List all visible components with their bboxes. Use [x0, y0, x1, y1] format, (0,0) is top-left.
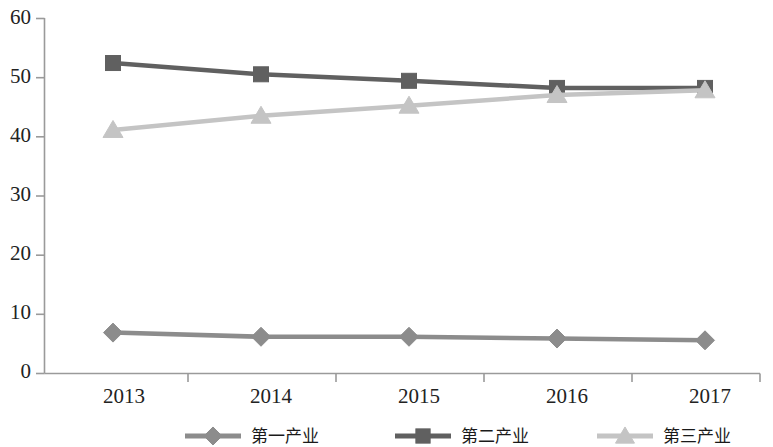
series-2	[106, 56, 713, 96]
legend-item-2[interactable]: 第二产业	[395, 426, 529, 446]
data-point-marker	[252, 327, 271, 346]
chart-legend: 第一产业第二产业第三产业	[185, 426, 731, 446]
data-point-marker	[204, 427, 222, 445]
legend-label: 第一产业	[251, 426, 319, 446]
data-point-marker	[106, 56, 121, 71]
data-point-marker	[254, 67, 269, 82]
data-point-marker	[416, 429, 430, 443]
legend-label: 第三产业	[663, 426, 731, 446]
x-tick-label: 2016	[546, 384, 588, 408]
x-tick-label: 2014	[250, 384, 293, 408]
legend-item-1[interactable]: 第一产业	[185, 426, 319, 446]
x-tick-label: 2013	[103, 384, 145, 408]
y-tick-label: 40	[10, 123, 31, 147]
y-tick-label: 50	[10, 64, 31, 88]
plot-series-layer	[103, 56, 715, 350]
y-tick-label: 10	[10, 300, 31, 324]
y-tick-label: 30	[10, 182, 31, 206]
line-chart: 60 50 40 30 20 10 0 2013 2014 2015 2016 …	[0, 0, 773, 447]
y-axis-ticks	[36, 19, 45, 374]
data-point-marker	[400, 327, 419, 346]
data-point-marker	[104, 323, 123, 342]
x-axis-ticks	[188, 374, 760, 383]
data-point-marker	[548, 329, 567, 348]
y-tick-label: 0	[21, 359, 32, 383]
legend-label: 第二产业	[461, 426, 529, 446]
data-point-marker	[402, 73, 417, 88]
chart-canvas: 60 50 40 30 20 10 0 2013 2014 2015 2016 …	[0, 0, 773, 447]
y-tick-label: 60	[10, 5, 31, 29]
x-tick-label: 2015	[398, 384, 440, 408]
y-axis-labels: 60 50 40 30 20 10 0	[10, 5, 31, 383]
y-tick-label: 20	[10, 241, 31, 265]
legend-item-3[interactable]: 第三产业	[597, 426, 731, 446]
x-tick-label: 2017	[689, 384, 731, 408]
x-axis-labels: 2013 2014 2015 2016 2017	[103, 384, 731, 408]
data-point-marker	[696, 331, 715, 350]
series-1	[104, 323, 715, 350]
